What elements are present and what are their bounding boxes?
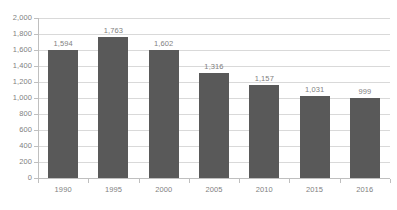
- category-axis-tick-label: 2005: [189, 186, 239, 194]
- bars-layer: 1,5941,7631,6021,3161,1571,031999: [38, 18, 390, 178]
- y-axis-tick: [34, 114, 38, 115]
- category-axis-tick-label: 2015: [289, 186, 339, 194]
- bar[interactable]: [249, 85, 279, 178]
- bar-slot: 1,031: [300, 18, 330, 178]
- y-axis-labels: 2,0001,8001,6001,4001,2001,0008006004002…: [0, 18, 32, 178]
- bar-slot: 1,594: [48, 18, 78, 178]
- category-axis-tick: [340, 179, 341, 183]
- bar-chart: 2,0001,8001,6001,4001,2001,0008006004002…: [0, 0, 397, 210]
- bar-value-label: 999: [358, 88, 371, 96]
- bar[interactable]: [350, 98, 380, 178]
- category-axis-tick: [390, 179, 391, 183]
- y-axis-tick: [34, 162, 38, 163]
- category-axis-tick-label: 2016: [340, 186, 390, 194]
- y-axis-tick: [34, 18, 38, 19]
- category-axis-tick: [38, 179, 39, 183]
- bar-slot: 1,602: [149, 18, 179, 178]
- y-axis-tick-label: 600: [0, 126, 32, 134]
- category-axis-tick-label: 1990: [38, 186, 88, 194]
- bar[interactable]: [199, 73, 229, 178]
- gridline: [38, 178, 390, 179]
- category-axis-tick: [239, 179, 240, 183]
- y-axis-tick-label: 1,200: [0, 78, 32, 86]
- y-axis-tick-label: 0: [0, 174, 32, 182]
- category-axis-tick-label: 1995: [88, 186, 138, 194]
- bar[interactable]: [98, 37, 128, 178]
- y-axis-tick-label: 1,600: [0, 46, 32, 54]
- bar-slot: 1,763: [98, 18, 128, 178]
- category-axis-tick: [139, 179, 140, 183]
- bar-value-label: 1,031: [305, 86, 324, 94]
- y-axis-tick: [34, 50, 38, 51]
- bar-value-label: 1,316: [204, 63, 223, 71]
- bar-value-label: 1,763: [104, 27, 123, 35]
- y-axis-tick: [34, 130, 38, 131]
- y-axis-tick: [34, 98, 38, 99]
- y-axis-tick: [34, 66, 38, 67]
- y-axis-tick-label: 1,800: [0, 30, 32, 38]
- bar-slot: 1,316: [199, 18, 229, 178]
- category-axis-tick-label: 2010: [239, 186, 289, 194]
- category-axis-tick: [88, 179, 89, 183]
- bar-value-label: 1,157: [255, 75, 274, 83]
- category-axis-labels: 1990199520002005201020152016: [38, 186, 390, 200]
- category-axis-tick: [289, 179, 290, 183]
- bar-slot: 1,157: [249, 18, 279, 178]
- y-axis-tick-label: 400: [0, 142, 32, 150]
- y-axis-tick-label: 200: [0, 158, 32, 166]
- y-axis-tick-label: 1,400: [0, 62, 32, 70]
- y-axis-tick-label: 800: [0, 110, 32, 118]
- y-axis-tick-label: 1,000: [0, 94, 32, 102]
- bar[interactable]: [48, 50, 78, 178]
- bar[interactable]: [300, 96, 330, 178]
- y-axis-tick: [34, 34, 38, 35]
- y-axis-tick-label: 2,000: [0, 14, 32, 22]
- bar-value-label: 1,602: [154, 40, 173, 48]
- y-axis-tick: [34, 146, 38, 147]
- bar-value-label: 1,594: [54, 40, 73, 48]
- bar[interactable]: [149, 50, 179, 178]
- bar-slot: 999: [350, 18, 380, 178]
- y-axis-tick: [34, 82, 38, 83]
- category-axis-tick: [189, 179, 190, 183]
- category-axis-tick-label: 2000: [139, 186, 189, 194]
